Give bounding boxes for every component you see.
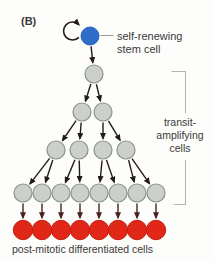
division-arrow xyxy=(132,159,149,184)
transit-amplifying-cell-node xyxy=(94,103,112,121)
stem-cell-label-line1: self-renewing xyxy=(117,30,182,42)
transit-label-line3: cells xyxy=(169,142,190,154)
transit-amplifying-cell-node xyxy=(71,184,89,202)
differentiated-cell-node xyxy=(146,220,165,239)
stem-cell-node xyxy=(81,27,99,45)
transit-amplifying-cell-node xyxy=(70,141,88,159)
transit-amplifying-cell-node xyxy=(52,184,70,202)
post-mitotic-label: post-mitotic differentiated cells xyxy=(12,243,153,255)
transit-amplifying-cell-node xyxy=(147,184,165,202)
transit-amplifying-cell-node xyxy=(85,65,103,83)
transit-amplifying-cell-node xyxy=(47,141,65,159)
division-arrow xyxy=(65,160,75,183)
transit-amplifying-cell-node xyxy=(94,141,112,159)
differentiated-cell-node xyxy=(127,220,146,239)
division-arrow xyxy=(62,121,76,141)
transit-amplifying-cell-node xyxy=(14,184,32,202)
transit-amplifying-cell-node xyxy=(109,184,127,202)
differentiated-cell-node xyxy=(70,220,89,239)
cell-nodes xyxy=(13,27,165,240)
division-arrow xyxy=(96,84,100,101)
division-arrow xyxy=(108,121,120,140)
transit-amplifying-cell-node xyxy=(117,141,135,159)
division-arrow xyxy=(91,46,93,62)
self-renewal-loop-arrow xyxy=(64,22,79,40)
transit-bracket-bottom xyxy=(174,160,186,205)
differentiated-cell-node xyxy=(32,220,51,239)
stem-cell-label-line2: stem cell xyxy=(117,43,160,55)
division-arrow xyxy=(85,84,90,101)
division-arrow xyxy=(106,160,114,182)
division-arrow xyxy=(100,160,102,181)
differentiated-cell-node xyxy=(89,220,108,239)
transit-label-line1: transit- xyxy=(164,116,197,128)
transit-amplifying-cell-node xyxy=(128,184,146,202)
division-arrow xyxy=(129,160,135,182)
differentiated-cell-node xyxy=(108,220,127,239)
stem-cell-lineage-figure: (B) self-renewing stem cell transit- amp… xyxy=(0,0,214,262)
stem-cell-lineage-diagram: (B) self-renewing stem cell transit- amp… xyxy=(0,0,214,262)
transit-amplifying-cell-node xyxy=(73,103,91,121)
division-arrow xyxy=(80,122,81,138)
transit-bracket-top xyxy=(172,72,186,114)
panel-label: (B) xyxy=(21,15,37,27)
transit-amplifying-cell-node xyxy=(33,184,51,202)
differentiated-cell-node xyxy=(13,220,32,239)
transit-amplifying-cell-node xyxy=(90,184,108,202)
differentiated-cell-node xyxy=(51,220,70,239)
transit-label-line2: amplifying xyxy=(156,129,203,141)
